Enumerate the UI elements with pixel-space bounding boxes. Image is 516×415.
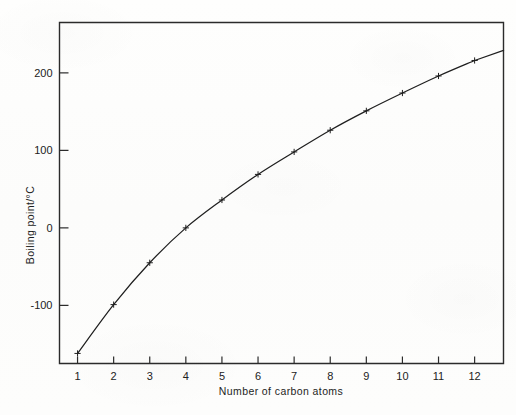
x-axis-title: Number of carbon atoms — [219, 385, 343, 397]
boiling-point-curve — [78, 50, 504, 353]
data-point-marker — [399, 90, 405, 96]
x-tick-label: 6 — [255, 370, 261, 382]
y-tick-label: 100 — [34, 144, 52, 156]
x-tick-label: 4 — [183, 370, 189, 382]
x-tick-label: 2 — [111, 370, 117, 382]
x-tick-label: 7 — [291, 370, 297, 382]
data-point-marker — [435, 73, 441, 79]
data-point-marker — [291, 149, 297, 155]
chart-page: 123456789101112 -1000100200 Number of ca… — [0, 0, 516, 415]
y-tick-label: 200 — [34, 67, 52, 79]
y-tick-label: -100 — [30, 299, 52, 311]
plot-frame — [60, 23, 504, 364]
x-tick-label: 12 — [468, 370, 480, 382]
x-tick-label: 10 — [396, 370, 408, 382]
x-tick-label: 9 — [363, 370, 369, 382]
data-point-markers — [74, 57, 477, 356]
boiling-point-chart: 123456789101112 -1000100200 Number of ca… — [0, 0, 516, 415]
x-tick-label: 11 — [433, 370, 444, 382]
data-point-marker — [327, 127, 333, 133]
y-axis-title: Boiling point/°C — [24, 186, 36, 264]
y-axis-ticks — [60, 73, 69, 306]
data-point-marker — [363, 108, 369, 114]
x-axis-tick-labels: 123456789101112 — [74, 370, 480, 382]
data-point-marker — [472, 57, 478, 63]
y-tick-label: 0 — [46, 222, 52, 234]
x-tick-label: 8 — [327, 370, 333, 382]
x-tick-label: 3 — [147, 370, 153, 382]
x-tick-label: 1 — [74, 370, 80, 382]
x-axis-ticks — [78, 357, 475, 364]
x-tick-label: 5 — [219, 370, 225, 382]
